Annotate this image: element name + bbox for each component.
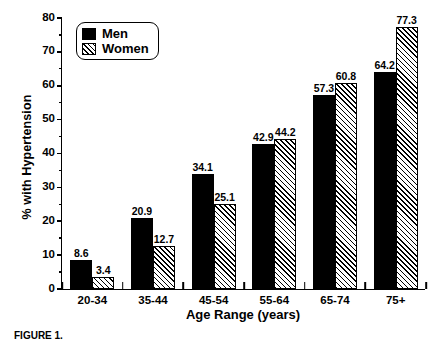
bar-value-label: 25.1 xyxy=(214,191,234,203)
legend-label-men: Men xyxy=(102,27,128,40)
bar-value-label: 8.6 xyxy=(74,247,89,259)
chart-legend: Men Women xyxy=(76,22,159,60)
y-tick-label: 60 xyxy=(42,78,55,90)
bar-group: 57.360.8 xyxy=(305,19,366,289)
bar-value-label: 20.9 xyxy=(132,205,152,217)
bar-men: 42.9 xyxy=(252,144,274,289)
legend-label-women: Women xyxy=(102,42,149,55)
bar-value-label: 64.2 xyxy=(374,59,394,71)
x-category-label: 45-54 xyxy=(199,294,228,306)
legend-swatch-women-icon xyxy=(82,43,96,55)
y-tick-label: 10 xyxy=(42,248,55,260)
bar-value-label: 42.9 xyxy=(253,131,273,143)
bar-men: 57.3 xyxy=(313,95,335,289)
x-category-label: 35-44 xyxy=(138,294,167,306)
y-tick-label: 80 xyxy=(42,11,55,23)
y-tick-label: 70 xyxy=(42,44,55,56)
figure-caption: FIGURE 1. xyxy=(14,330,427,341)
bar-value-label: 12.7 xyxy=(154,233,174,245)
y-axis-title: % with Hypertension xyxy=(20,42,34,272)
bar-women: 12.7 xyxy=(153,246,175,289)
y-tick-label: 40 xyxy=(42,146,55,158)
bar-value-label: 34.1 xyxy=(192,161,212,173)
bar-women: 60.8 xyxy=(335,83,357,289)
bar-men: 64.2 xyxy=(374,72,396,289)
legend-swatch-men-icon xyxy=(82,28,96,40)
legend-entry-men: Men xyxy=(82,26,149,41)
bar-women: 44.2 xyxy=(274,139,296,289)
x-category-label: 75+ xyxy=(386,294,406,306)
bar-value-label: 3.4 xyxy=(96,264,111,276)
y-tick-label: 30 xyxy=(42,180,55,192)
y-tick-label: 50 xyxy=(42,112,55,124)
y-tick-label: 20 xyxy=(42,214,55,226)
x-category-label: 20-34 xyxy=(78,294,107,306)
legend-entry-women: Women xyxy=(82,41,149,56)
y-tick-label: 0 xyxy=(49,282,55,294)
bar-men: 8.6 xyxy=(70,260,92,289)
x-category-label: 65-74 xyxy=(320,294,349,306)
bar-group: 42.944.2 xyxy=(244,19,305,289)
x-category-label: 55-64 xyxy=(260,294,289,306)
bar-value-label: 60.8 xyxy=(336,70,356,82)
bar-group: 64.277.3 xyxy=(365,19,426,289)
x-axis-title: Age Range (years) xyxy=(61,307,425,322)
bar-value-label: 77.3 xyxy=(396,14,416,26)
bar-men: 20.9 xyxy=(131,218,153,289)
bar-women: 77.3 xyxy=(396,27,418,289)
bar-group: 34.125.1 xyxy=(183,19,244,289)
bar-value-label: 44.2 xyxy=(275,126,295,138)
bar-men: 34.1 xyxy=(192,174,214,290)
bar-value-label: 57.3 xyxy=(314,82,334,94)
bar-women: 3.4 xyxy=(92,277,114,289)
bar-women: 25.1 xyxy=(214,204,236,289)
